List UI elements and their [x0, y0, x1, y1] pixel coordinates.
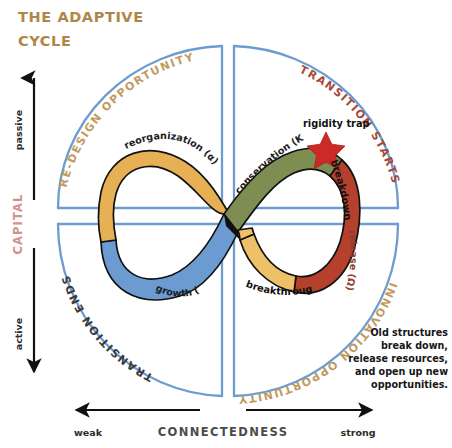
connectedness-axis-left-label: weak	[74, 427, 103, 438]
capital-axis: passive CAPITAL active	[11, 78, 34, 372]
connectedness-axis-right-label: strong	[341, 427, 376, 438]
capital-axis-top-label: passive	[13, 110, 24, 150]
diagram-canvas: THE ADAPTIVE CYCLE passive CAPITAL activ…	[0, 0, 452, 448]
page-title: THE ADAPTIVE CYCLE	[18, 9, 144, 49]
event-label-rigidity-trap: rigidity trap	[303, 118, 370, 129]
adaptive-cycle-diagram: THE ADAPTIVE CYCLE passive CAPITAL activ…	[0, 0, 452, 448]
note-line-4: and open up new	[355, 366, 448, 377]
note-line-1: Old structures	[370, 327, 448, 338]
connectedness-axis: weak CONNECTEDNESS strong	[74, 410, 375, 439]
note-line-2: break down,	[381, 340, 448, 351]
note-line-3: release resources,	[348, 353, 448, 364]
capital-axis-label: CAPITAL	[11, 194, 25, 255]
connectedness-axis-label: CONNECTEDNESS	[158, 425, 289, 439]
title-line-2: CYCLE	[18, 33, 71, 49]
note-line-5: opportunities.	[371, 379, 448, 390]
title-line-1: THE ADAPTIVE	[18, 9, 144, 25]
capital-axis-bottom-label: active	[13, 318, 24, 350]
